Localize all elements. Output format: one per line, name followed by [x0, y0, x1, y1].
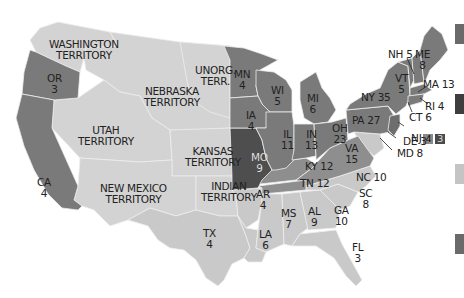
label-wi: WI 5: [271, 85, 284, 107]
label-pa: PA 27: [352, 115, 380, 126]
label-tx: TX 4: [203, 228, 216, 250]
label-ar: AR 4: [256, 189, 270, 211]
state-ct-ri: [408, 94, 424, 106]
label-tn: TN 12: [300, 178, 329, 189]
legend-swatch-1: [455, 24, 464, 44]
label-va: VA 15: [345, 143, 358, 165]
label-mo: MO 9: [251, 152, 268, 174]
label-al: AL 9: [308, 206, 320, 228]
label-newmexico-territory: NEW MEXICO TERRITORY: [100, 183, 167, 205]
nj-split-douglas: 3: [435, 134, 445, 144]
legend-swatch-4: [455, 234, 464, 254]
label-fl: FL 3: [352, 242, 363, 264]
label-vt: VT 5: [395, 73, 408, 95]
label-washington-territory: WASHINGTON TERRITORY: [49, 39, 119, 61]
legend-swatch-3: [455, 164, 464, 184]
legend-swatch-2: [455, 94, 464, 114]
state-nj: [388, 114, 400, 136]
label-md: MD 8: [397, 148, 423, 159]
label-ky: KY 12: [305, 161, 333, 172]
label-ms: MS 7: [281, 208, 296, 230]
label-la: LA 6: [259, 229, 272, 251]
label-utah-territory: UTAH TERRITORY: [78, 125, 134, 147]
state-tx: [128, 208, 250, 286]
label-nh: NH 5: [388, 49, 413, 60]
label-ma: MA 13: [423, 79, 454, 90]
label-ca: CA 4: [37, 177, 51, 199]
label-unorg-territory: UNORG. TERR.: [195, 65, 236, 87]
label-me: ME 8: [415, 49, 430, 71]
label-ga: GA 10: [334, 205, 349, 227]
label-in: IN 13: [305, 129, 318, 151]
label-ia: IA 4: [246, 110, 256, 132]
label-or: OR 3: [47, 73, 62, 95]
label-ny: NY 35: [361, 92, 390, 103]
label-nc: NC 10: [356, 172, 386, 183]
label-mn: MN 4: [234, 69, 250, 91]
label-mi: MI 6: [307, 93, 319, 115]
label-kansas-territory: KANSAS TERRITORY: [185, 146, 241, 168]
label-il: IL 11: [281, 129, 294, 151]
label-de: DE 3: [403, 136, 427, 147]
label-sc: SC 8: [359, 188, 372, 210]
label-indian-territory: INDIAN TERRITORY: [201, 181, 257, 203]
label-nebraska-territory: NEBRASKA TERRITORY: [144, 86, 200, 108]
